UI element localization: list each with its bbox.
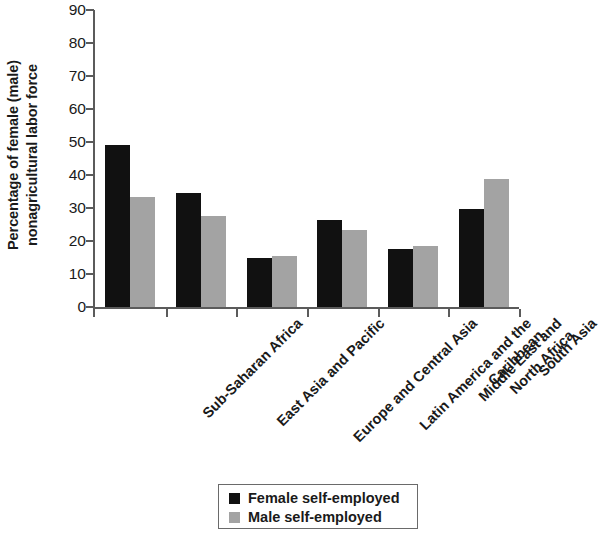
y-axis-tick-label: 90 — [69, 1, 86, 19]
y-axis-tick-label: 20 — [69, 232, 86, 250]
bar-male — [201, 216, 226, 307]
y-axis-tick-mark — [86, 108, 94, 110]
legend-entry-male: Male self-employed — [229, 508, 417, 526]
bar-female — [388, 249, 413, 307]
y-axis-tick-mark — [86, 174, 94, 176]
y-axis-tick-label: 60 — [69, 100, 86, 118]
legend-label-male: Male self-employed — [248, 509, 382, 525]
bar-male — [342, 230, 367, 307]
y-axis-tick-labels: 0102030405060708090 — [46, 0, 90, 320]
bar-male — [272, 256, 297, 307]
y-axis-tick-mark — [86, 207, 94, 209]
legend-entry-female: Female self-employed — [229, 489, 417, 507]
legend-swatch-male-icon — [229, 512, 240, 523]
y-axis-tick-mark — [86, 75, 94, 77]
y-axis-tick-label: 10 — [69, 265, 86, 283]
y-axis-title-line-1: Percentage of female (male) — [4, 60, 23, 250]
y-axis-tick-mark — [86, 240, 94, 242]
bar-female — [105, 145, 130, 307]
bar-male — [413, 246, 438, 307]
y-axis-tick-mark — [86, 42, 94, 44]
bar-female — [317, 220, 342, 307]
x-axis-category-labels: Sub-Saharan AfricaEast Asia and PacificE… — [0, 309, 537, 439]
legend: Female self-employed Male self-employed — [218, 484, 418, 529]
y-axis-tick-label: 30 — [69, 199, 86, 217]
legend-label-female: Female self-employed — [248, 490, 400, 506]
y-axis-title-line-2: nonagricultural labor force — [23, 60, 42, 250]
bar-female — [176, 193, 201, 308]
y-axis-tick-label: 70 — [69, 67, 86, 85]
plot-area — [95, 10, 519, 307]
y-axis-title: Percentage of female (male) nonagricultu… — [0, 0, 46, 310]
y-axis-tick-mark — [86, 306, 94, 308]
y-axis-tick-mark — [86, 273, 94, 275]
bar-male — [130, 197, 155, 307]
y-axis-tick-label: 40 — [69, 166, 86, 184]
y-axis-tick-label: 50 — [69, 133, 86, 151]
bar-female — [459, 209, 484, 307]
y-axis-tick-label: 80 — [69, 34, 86, 52]
bar-male — [484, 179, 509, 307]
y-axis-tick-mark — [86, 9, 94, 11]
legend-swatch-female-icon — [229, 493, 240, 504]
y-axis-tick-mark — [86, 141, 94, 143]
bar-female — [247, 258, 272, 308]
